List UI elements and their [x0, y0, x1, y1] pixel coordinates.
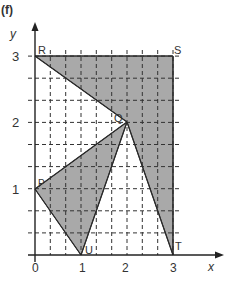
figure-label: (f): [1, 3, 13, 17]
point-label-u: U: [85, 244, 93, 256]
coordinate-diagram: (f) y x 0 1 2 3 1 2 3 R S Q P U T: [0, 0, 233, 287]
y-tick-3: 3: [12, 49, 19, 64]
x-axis-arrow-icon: [215, 252, 224, 259]
y-tick-2: 2: [12, 115, 19, 130]
point-label-r: R: [38, 44, 46, 56]
y-tick-1: 1: [12, 182, 19, 197]
x-axis-label: x: [207, 260, 215, 274]
x-axis: [28, 252, 224, 259]
x-tick-2: 2: [122, 261, 129, 275]
x-tick-3: 3: [170, 261, 177, 275]
point-label-t: T: [175, 240, 182, 252]
x-tick-0: 0: [32, 261, 39, 275]
y-axis-label: y: [9, 27, 17, 41]
point-label-q: Q: [114, 112, 123, 124]
y-axis-arrow-icon: [32, 22, 39, 31]
point-label-s: S: [174, 44, 181, 56]
x-tick-1: 1: [79, 261, 86, 275]
point-label-p: P: [38, 178, 45, 189]
